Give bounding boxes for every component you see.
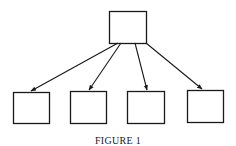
- child-box-1: [14, 93, 50, 124]
- arrow-icon: [135, 43, 147, 90]
- figure-caption: FIGURE 1: [0, 135, 236, 146]
- hierarchy-diagram: [0, 0, 236, 146]
- arrow-icon: [146, 43, 202, 89]
- parent-box: [110, 12, 147, 44]
- child-box-3: [128, 92, 165, 124]
- child-box-2: [71, 92, 107, 124]
- child-box-4: [188, 91, 224, 123]
